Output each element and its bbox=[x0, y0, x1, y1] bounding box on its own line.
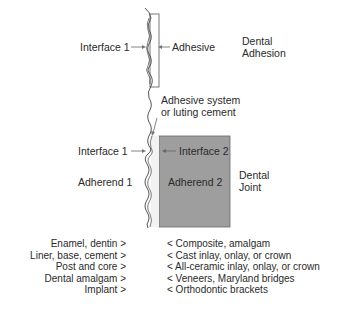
dental-joint-title-2: Joint bbox=[239, 181, 261, 193]
adherend1-item: Implant > bbox=[85, 284, 126, 296]
adherend1-item: Dental amalgam > bbox=[45, 273, 126, 285]
adherend-pairs-table: Enamel, dentin > < Composite, amalgam Li… bbox=[0, 238, 360, 296]
adhesive-system-label-2: or luting cement bbox=[161, 106, 236, 118]
adherend2-item: < Veneers, Maryland bridges bbox=[167, 273, 295, 285]
adhesive-label: Adhesive bbox=[172, 41, 215, 53]
adherend2-item: < All-ceramic inlay, onlay, or crown bbox=[167, 261, 320, 273]
adherend1-label: Adherend 1 bbox=[78, 176, 132, 188]
adherend2-item: < Composite, amalgam bbox=[167, 238, 270, 250]
interface1-bottom-label: Interface 1 bbox=[78, 145, 128, 157]
pair-row: Enamel, dentin > < Composite, amalgam bbox=[0, 238, 360, 250]
pair-row: Dental amalgam > < Veneers, Maryland bri… bbox=[0, 273, 360, 285]
dental-adhesion-title-1: Dental bbox=[242, 35, 272, 47]
pair-row: Implant > < Orthodontic brackets bbox=[0, 284, 360, 296]
adherend1-item: Post and core > bbox=[56, 261, 126, 273]
dental-adhesion-title-2: Adhesion bbox=[242, 47, 286, 59]
pair-row: Post and core > < All-ceramic inlay, onl… bbox=[0, 261, 360, 273]
interface1-top-label: Interface 1 bbox=[80, 41, 130, 53]
adherend2-label: Adherend 2 bbox=[168, 176, 222, 188]
adherend2-item: < Orthodontic brackets bbox=[167, 284, 268, 296]
dental-joint-title-1: Dental bbox=[239, 169, 269, 181]
pair-row: Liner, base, cement > < Cast inlay, onla… bbox=[0, 250, 360, 262]
adherend1-item: Enamel, dentin > bbox=[51, 238, 126, 250]
adherend1-item: Liner, base, cement > bbox=[30, 250, 126, 262]
interface2-label: Interface 2 bbox=[179, 145, 229, 157]
adherend2-item: < Cast inlay, onlay, or crown bbox=[167, 250, 291, 262]
adhesive-system-label-1: Adhesive system bbox=[161, 94, 240, 106]
